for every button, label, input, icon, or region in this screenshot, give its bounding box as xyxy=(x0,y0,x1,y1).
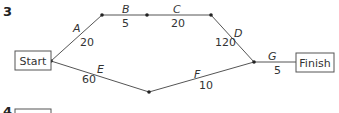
node-bc xyxy=(145,13,149,17)
edge-a-weight: 20 xyxy=(80,36,94,49)
next-question-number: 4 xyxy=(3,104,12,113)
next-start-box xyxy=(15,109,51,113)
edge-d-weight: 120 xyxy=(215,36,236,49)
edge-f-weight: 10 xyxy=(199,79,213,92)
edge-c-weight: 20 xyxy=(171,17,185,30)
edge-e-weight: 60 xyxy=(82,73,96,86)
node-cd xyxy=(209,13,213,17)
edge-b-label: B xyxy=(122,3,130,16)
node-dfg xyxy=(252,60,256,64)
edge-a-label: A xyxy=(72,22,81,35)
edge-b-weight: 5 xyxy=(122,17,129,30)
question-number: 3 xyxy=(3,4,12,19)
edge-g-weight: 5 xyxy=(274,64,281,77)
finish-label: Finish xyxy=(299,57,330,70)
node-ef xyxy=(147,90,151,94)
edge-g-label: G xyxy=(268,50,277,63)
start-label: Start xyxy=(20,55,48,68)
edge-c-label: C xyxy=(173,3,181,16)
edge-e-label: E xyxy=(97,63,104,76)
network-diagram: 3 Start Finish A 20 B 5 C 20 D 120 E 60 … xyxy=(0,0,339,113)
node-ab xyxy=(100,13,104,17)
